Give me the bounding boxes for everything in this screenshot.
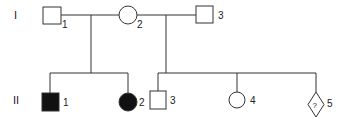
affected-male-symbol-ii1: [42, 93, 59, 111]
male-symbol-ii3: [150, 91, 166, 109]
id-label-ii3: 3: [170, 95, 176, 106]
pedigree-chart: I II 1 2 3 1 2 3 4 ? 5: [0, 0, 346, 125]
id-label-ii4: 4: [250, 95, 256, 106]
female-symbol-i2: [119, 6, 137, 24]
id-label-ii5: 5: [327, 98, 333, 109]
male-symbol-i3: [196, 6, 213, 23]
male-symbol-i1: [43, 7, 61, 24]
generation-label-2: II: [13, 94, 19, 106]
question-mark-ii5: ?: [313, 101, 318, 110]
id-label-i3: 3: [218, 10, 224, 21]
id-label-ii2: 2: [139, 97, 145, 108]
id-label-ii1: 1: [63, 97, 69, 108]
affected-female-symbol-ii2: [119, 93, 137, 111]
id-label-i2: 2: [137, 19, 143, 30]
female-symbol-ii4: [229, 92, 245, 108]
generation-label-1: I: [14, 9, 17, 21]
id-label-i1: 1: [62, 19, 68, 30]
